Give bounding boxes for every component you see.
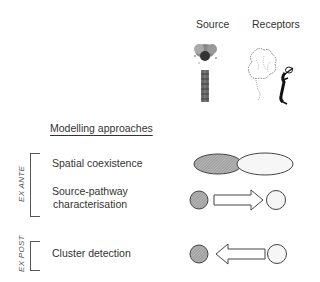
overlapping-ellipses-symbol xyxy=(194,153,293,175)
source-to-receptor-symbol xyxy=(190,190,286,210)
row-label-cluster-detection: Cluster detection xyxy=(52,247,131,260)
row-label-characterisation: characterisation xyxy=(53,198,127,211)
ex-ante-label: EX ANTE xyxy=(17,166,26,202)
section-title: Modelling approaches xyxy=(50,122,153,134)
diagram-graphics xyxy=(0,0,320,282)
ex-ante-bracket xyxy=(30,153,40,217)
smokestack-icon xyxy=(194,44,217,102)
ex-post-bracket xyxy=(30,241,40,271)
people-icon xyxy=(248,48,293,104)
row-label-source-pathway: Source-pathway xyxy=(52,185,128,198)
ex-post-label: EX POST xyxy=(17,235,26,272)
row-label-spatial-coexistence: Spatial coexistence xyxy=(52,157,142,170)
receptor-to-source-symbol xyxy=(190,244,287,264)
